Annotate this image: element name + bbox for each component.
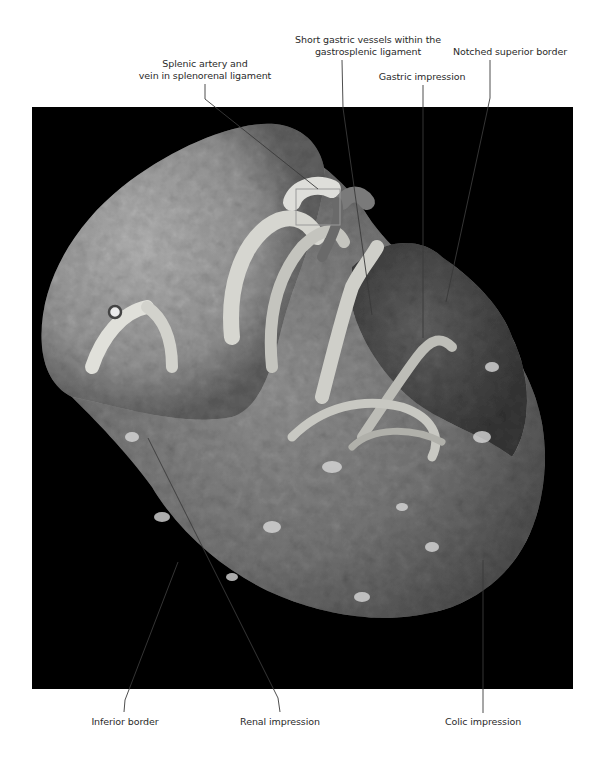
leader-lines: [0, 0, 600, 768]
leader-renal-impression: [148, 438, 280, 712]
leader-splenic-artery: [205, 84, 318, 189]
leader-short-gastric: [342, 60, 372, 315]
leader-inferior-border: [124, 562, 178, 712]
leader-notched-superior: [446, 60, 490, 302]
